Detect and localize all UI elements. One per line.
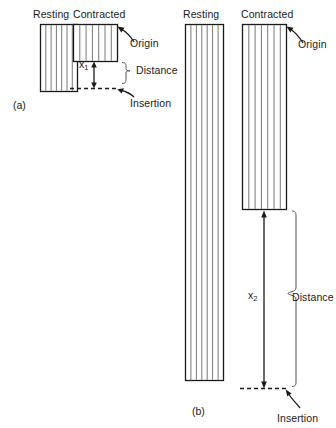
panel-a-resting-muscle: [41, 25, 78, 92]
panel-a-x1-label: x1: [79, 59, 89, 70]
panel-b-origin-label: Origin: [298, 39, 327, 50]
panel-b-contracted-muscle: [243, 25, 287, 210]
panel-b-label: (b): [192, 406, 205, 417]
panel-a-origin-label: Origin: [130, 38, 159, 49]
panel-a-contracted-heading: Contracted: [73, 9, 125, 20]
panel-b-x2-label: x2: [248, 290, 258, 301]
panel-a-insertion-label: Insertion: [130, 98, 171, 109]
panel-a-label: (a): [13, 100, 26, 111]
panel-b-distance-label: Distance: [292, 292, 334, 303]
panel-b-insertion-label: Insertion: [277, 413, 318, 424]
panel-b-resting-heading: Resting: [183, 9, 219, 20]
panel-a-contracted-muscle: [74, 25, 118, 62]
panel-a-x1-subscript: 1: [84, 63, 88, 72]
panel-b-contracted-heading: Contracted: [241, 9, 293, 20]
panel-b-resting-muscle: [186, 25, 224, 381]
panel-a-resting-heading: Resting: [33, 9, 69, 20]
panel-b-x2-subscript: 2: [253, 294, 257, 303]
panel-a-distance-label: Distance: [136, 65, 178, 76]
